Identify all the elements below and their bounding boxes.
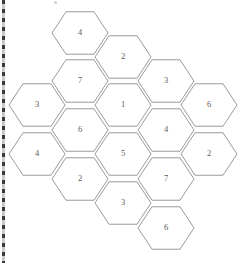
hex-cell-label: 1 <box>121 99 125 109</box>
hex-cell-label: 5 <box>121 148 125 158</box>
hex-cell[interactable]: 2 <box>52 158 108 200</box>
hex-puzzle-page: 3447622153347662 <box>0 0 247 263</box>
hex-cell[interactable]: 6 <box>138 207 194 249</box>
hex-grid-svg: 3447622153347662 <box>0 0 247 263</box>
hex-cell[interactable]: 4 <box>9 133 65 175</box>
hex-cell-label: 6 <box>207 99 211 109</box>
hex-cell-label: 6 <box>78 124 82 134</box>
hex-cell-label: 7 <box>164 173 168 183</box>
hex-cell-label: 3 <box>121 197 125 207</box>
hex-cell-label: 2 <box>207 148 211 158</box>
hex-cell[interactable]: 3 <box>9 84 65 126</box>
hex-cell[interactable]: 3 <box>95 182 151 224</box>
hex-cell[interactable]: 1 <box>95 84 151 126</box>
hex-cell[interactable]: 6 <box>181 84 237 126</box>
hex-cell[interactable]: 5 <box>95 133 151 175</box>
hex-cell[interactable]: 4 <box>52 12 108 54</box>
hex-grid-board: 3447622153347662 <box>0 0 247 263</box>
hex-cell[interactable]: 6 <box>52 109 108 151</box>
hex-cell[interactable]: 2 <box>95 36 151 78</box>
hex-cell[interactable]: 3 <box>138 60 194 102</box>
hex-cell-label: 7 <box>78 75 82 85</box>
hex-cell-label: 2 <box>78 173 82 183</box>
hex-cell[interactable]: 2 <box>181 133 237 175</box>
hex-cell-label: 3 <box>164 75 168 85</box>
hex-cell-label: 2 <box>121 51 125 61</box>
hex-cell-label: 3 <box>35 99 39 109</box>
hex-cell[interactable]: 7 <box>138 158 194 200</box>
hex-cell[interactable]: 7 <box>52 60 108 102</box>
hex-cell-label: 6 <box>164 222 168 232</box>
hex-cell[interactable]: 4 <box>138 109 194 151</box>
